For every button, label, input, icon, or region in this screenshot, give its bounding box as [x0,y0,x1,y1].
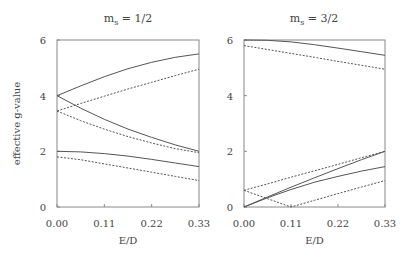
x-tick-label: 0.11 [93,218,115,229]
figure: ms = 1/202460.000.110.220.33E/Deffective… [0,0,412,259]
x-tick-label: 0.00 [233,218,255,229]
x-tick-label: 0.33 [188,218,210,229]
series-line-solid [244,167,385,207]
x-tick-label: 0.22 [327,218,349,229]
y-tick-label: 0 [40,202,46,213]
x-axis-label: E/D [305,235,324,246]
x-tick-label: 0.11 [280,218,302,229]
x-tick-label: 0.22 [141,218,163,229]
y-tick-label: 6 [40,35,46,46]
x-tick-label: 0.33 [374,218,396,229]
chart-panel-1: ms = 1/202460.000.110.220.33E/Deffective… [11,12,210,246]
y-tick-label: 6 [227,35,233,46]
series-line-dashed [57,157,199,181]
chart-panel-2: ms = 3/202460.000.110.220.33E/D [227,12,397,246]
chart-title: ms = 1/2 [104,12,152,27]
y-tick-label: 4 [227,91,233,102]
plot-frame [57,40,199,207]
series-line-dashed [57,69,199,111]
chart-title: ms = 3/2 [290,12,338,27]
series-line-dashed [244,46,385,70]
y-tick-label: 2 [227,146,233,157]
x-axis-label: E/D [119,235,138,246]
y-tick-label: 2 [40,146,46,157]
y-tick-label: 4 [40,91,46,102]
y-tick-label: 0 [227,202,233,213]
series-line-solid [244,40,385,55]
series-line-dashed [57,111,199,153]
x-tick-label: 0.00 [46,218,68,229]
y-axis-label: effective g-value [11,82,22,166]
